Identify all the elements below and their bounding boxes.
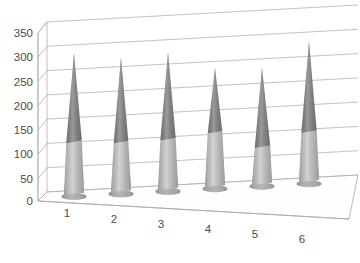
cone-lower-segment	[158, 138, 178, 191]
x-tick-label: 1	[64, 207, 70, 219]
y-tick-label: 200	[14, 100, 33, 112]
cone-lower-segment	[252, 145, 272, 186]
x-tick-label: 5	[252, 228, 258, 240]
x-tick-label: 6	[299, 233, 305, 245]
x-tick-label: 3	[158, 218, 164, 230]
cone-lower-segment	[205, 131, 225, 189]
cone-base-shadow	[64, 194, 84, 200]
y-axis-labels: 350 300 250 200 150 100 50 0	[14, 27, 33, 207]
cone-base-shadow	[252, 183, 272, 189]
cone-lower-segment	[111, 141, 131, 194]
tick-300	[38, 46, 47, 57]
y-tick-label: 250	[14, 76, 33, 88]
x-tick-label: 4	[205, 223, 212, 235]
y-tick-label: 150	[14, 124, 33, 136]
y-tick-label: 300	[14, 51, 33, 63]
tick-150	[38, 119, 47, 130]
cone-base-shadow	[299, 181, 319, 187]
tick-100	[38, 143, 47, 154]
x-tick-label: 2	[111, 213, 117, 225]
y-tick-label: 0	[27, 195, 33, 207]
y-tick-label: 350	[14, 27, 33, 39]
cone-lower-segment	[299, 130, 319, 183]
tick-350	[38, 22, 47, 33]
cone-base-shadow	[205, 186, 225, 192]
chart-page: 350 300 250 200 150 100 50 0	[0, 0, 360, 263]
y-tick-label: 100	[14, 148, 33, 160]
cone-base-shadow	[111, 191, 131, 197]
cone-lower-segment	[64, 141, 84, 197]
cone-base-shadow	[158, 189, 178, 195]
axis-ticks	[38, 22, 47, 201]
tick-200	[38, 95, 47, 106]
tick-50	[38, 168, 47, 179]
tick-250	[38, 71, 47, 82]
y-tick-label: 50	[20, 173, 33, 185]
cone-chart-3d: 350 300 250 200 150 100 50 0	[0, 0, 360, 263]
